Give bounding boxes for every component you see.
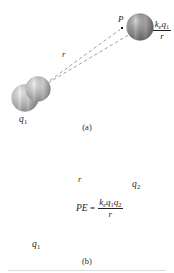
dashed-distance-line-b: [48, 34, 130, 83]
equation-fraction: keq1q2 r: [98, 198, 123, 220]
charge-label-q1-b: q1: [32, 240, 40, 250]
numerator-q1: q: [106, 197, 111, 207]
charge-subscript: 1: [37, 243, 40, 250]
physics-figure: P r q1 V1 = keq1 r (a): [0, 0, 174, 273]
panel-b-graphics: [0, 0, 174, 137]
panel-b: q2 r q1 PE = keq1q2 r (b): [0, 136, 174, 273]
charge-label-q2-b: q2: [132, 180, 140, 190]
sphere-q1-b: [26, 77, 51, 102]
equation-equals-sign: =: [90, 204, 95, 213]
sphere-q2-b: [127, 14, 154, 41]
panel-caption-b: (b): [0, 257, 174, 266]
numerator-q2-subscript: 2: [118, 201, 121, 208]
numerator-k-subscript: e: [103, 201, 106, 208]
distance-label-b: r: [78, 175, 81, 184]
equation-potential-energy-b: PE = keq1q2 r: [76, 198, 123, 220]
equation-numerator: keq1q2: [98, 198, 123, 208]
numerator-q1-subscript: 1: [111, 201, 114, 208]
bottom-divider: [8, 270, 166, 271]
charge-subscript: 2: [137, 183, 140, 190]
equation-lhs: PE: [76, 204, 88, 214]
equation-denominator: r: [107, 210, 114, 220]
